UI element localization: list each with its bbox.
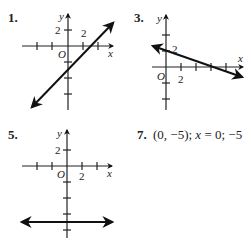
- graph-line: [32, 23, 113, 107]
- y-axis-label: y: [58, 10, 64, 22]
- answer-rest: = 0; −5: [201, 127, 242, 142]
- graphs-canvas: y 2 2 O x y 2 x O 2: [0, 0, 251, 250]
- svg-text:O: O: [58, 48, 66, 60]
- graph-5: [22, 130, 112, 238]
- svg-text:x: x: [106, 167, 112, 179]
- svg-text:y: y: [156, 12, 162, 24]
- exercise-7-answer: (0, −5); x = 0; −5: [153, 127, 242, 143]
- svg-text:x: x: [237, 52, 243, 64]
- graph-3: [152, 15, 243, 110]
- svg-text:O: O: [157, 70, 165, 82]
- svg-text:O: O: [57, 168, 65, 180]
- graph-1: [22, 14, 113, 110]
- answer-point: (0, −5);: [153, 127, 195, 142]
- svg-text:x: x: [107, 47, 113, 59]
- svg-text:2: 2: [55, 144, 61, 156]
- svg-text:2: 2: [81, 27, 87, 39]
- svg-text:2: 2: [172, 43, 178, 55]
- svg-text:2: 2: [55, 24, 61, 36]
- svg-text:y: y: [56, 127, 62, 139]
- svg-text:2: 2: [178, 73, 184, 85]
- svg-text:2: 2: [79, 170, 85, 182]
